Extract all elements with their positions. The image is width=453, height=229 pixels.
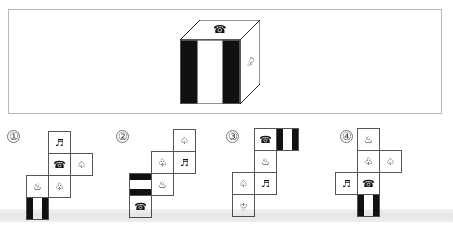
net-cell-music-note-icon: ♬ bbox=[173, 151, 196, 174]
option-4-label[interactable]: ④ bbox=[340, 130, 353, 143]
net-cell-spade-icon: ♤ bbox=[232, 172, 255, 195]
cube-top-telephone-icon: ☎ bbox=[213, 23, 227, 36]
net-cell-telephone-icon: ☎ bbox=[48, 153, 71, 176]
net-cell-music-note-icon: ♬ bbox=[335, 172, 358, 195]
net-cell-music-note-icon: ♬ bbox=[254, 172, 277, 195]
net-cell-spade-icon: ♤ bbox=[379, 150, 402, 173]
net-cell-telephone-icon: ☎ bbox=[357, 172, 380, 195]
option-3-label[interactable]: ③ bbox=[226, 130, 239, 143]
option-2-label[interactable]: ② bbox=[116, 130, 129, 143]
net-cell-fountain-icon: ♨ bbox=[254, 150, 277, 173]
net-cell-spade-icon: ♤ bbox=[173, 129, 196, 152]
net-cell-spade-icon: ♤ bbox=[70, 153, 93, 176]
net-cell-fountain-icon: ♨ bbox=[26, 175, 49, 198]
net-cell-stripes-vertical bbox=[276, 128, 299, 151]
scan-band bbox=[0, 209, 453, 222]
net-cell-fountain-icon: ♨ bbox=[357, 128, 380, 151]
net-cell-telephone-icon: ☎ bbox=[254, 128, 277, 151]
option-1-label[interactable]: ① bbox=[7, 130, 20, 143]
net-cell-club-icon: ♧ bbox=[48, 175, 71, 198]
net-cell-club-icon: ♧ bbox=[151, 151, 174, 174]
net-cell-fountain-icon: ♨ bbox=[151, 173, 174, 196]
net-cell-music-note-icon: ♬ bbox=[48, 131, 71, 154]
net-cell-club-icon: ♧ bbox=[357, 150, 380, 173]
net-cell-stripes-horizontal bbox=[129, 173, 152, 196]
